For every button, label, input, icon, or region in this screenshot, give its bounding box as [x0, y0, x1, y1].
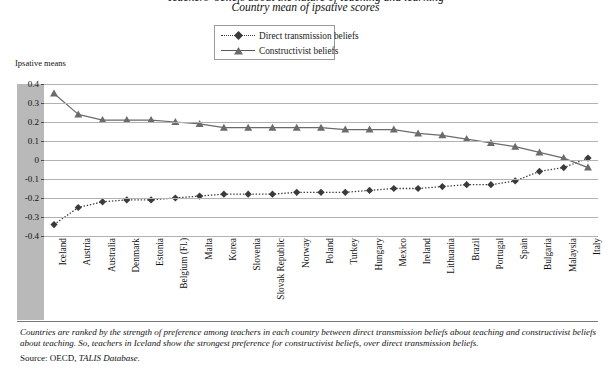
legend-item-direct-transmission: Direct transmission beliefs	[221, 29, 359, 43]
x-tick-label: Malta	[204, 238, 214, 260]
y-tick-mark	[41, 103, 44, 104]
x-tick-label: Korea	[228, 238, 238, 261]
y-tick-label: 0	[35, 155, 40, 165]
x-tick-label: Brazil	[471, 238, 481, 261]
footer-source-prefix: Source: OECD,	[20, 353, 79, 363]
legend-item-constructivist: Constructivist beliefs	[221, 44, 338, 58]
data-point-diamond	[245, 191, 252, 198]
data-point-diamond	[317, 189, 324, 196]
legend-swatch-diamond	[221, 30, 255, 42]
data-point-diamond	[220, 191, 227, 198]
x-tick-label: Turkey	[349, 238, 359, 265]
y-tick-label: 0.1	[28, 136, 39, 146]
x-tick-label: Italy	[592, 238, 602, 255]
x-tick-label: Estonia	[155, 238, 165, 266]
y-tick-label: -0.4	[25, 231, 39, 241]
x-axis-band	[17, 236, 44, 320]
data-point-diamond	[560, 164, 567, 171]
x-tick-label: Slovenia	[252, 238, 262, 271]
footer-divider	[17, 321, 598, 322]
data-point-diamond	[487, 181, 494, 188]
y-tick-label: -0.3	[25, 212, 39, 222]
figure-footer: Countries are ranked by the strength of …	[20, 327, 598, 364]
data-point-diamond	[99, 198, 106, 205]
gridline	[44, 217, 598, 218]
y-tick-mark	[41, 141, 44, 142]
legend-label-direct-transmission: Direct transmission beliefs	[259, 31, 359, 41]
x-tick-label: Belgium (Fl.)	[179, 238, 189, 289]
x-tick-label: Mexico	[398, 238, 408, 266]
x-tick-label: Hungary	[374, 238, 384, 271]
x-tick-label: Bulgaria	[543, 238, 553, 270]
y-tick-label: 0.3	[28, 98, 39, 108]
footer-source: Source: OECD, TALIS Database.	[20, 353, 598, 364]
y-tick-label: 0.2	[28, 117, 39, 127]
gridline	[44, 160, 598, 161]
footer-note: Countries are ranked by the strength of …	[20, 327, 598, 350]
gridline	[44, 236, 598, 237]
y-tick-label: 0.4	[28, 79, 39, 89]
data-point-diamond	[390, 185, 397, 192]
x-tick-label: Lithuania	[446, 238, 456, 274]
gridline	[44, 103, 598, 104]
x-tick-label: Portugal	[495, 238, 505, 270]
y-tick-mark	[41, 122, 44, 123]
y-tick-mark	[41, 236, 44, 237]
chart-legend: Direct transmission beliefs Constructivi…	[214, 25, 335, 60]
y-axis-ticks: 0.40.30.20.10-0.1-0.2-0.3-0.4	[17, 84, 44, 236]
y-axis-label: Ipsative means	[15, 58, 66, 68]
gridline	[44, 179, 598, 180]
y-tick-label: -0.2	[25, 193, 39, 203]
data-point-diamond	[414, 185, 421, 192]
diamond-icon	[234, 31, 243, 40]
y-tick-mark	[41, 217, 44, 218]
gridline	[44, 84, 598, 85]
x-tick-label: Poland	[325, 238, 335, 264]
y-tick-mark	[41, 84, 44, 85]
chart-subtitle: Country mean of ipsative scores	[0, 1, 611, 13]
data-point-diamond	[269, 191, 276, 198]
figure-container: Teachers' beliefs about the nature of te…	[0, 0, 611, 376]
y-tick-mark	[41, 198, 44, 199]
legend-swatch-triangle	[221, 45, 255, 57]
data-point-triangle	[50, 90, 58, 97]
data-point-diamond	[463, 181, 470, 188]
y-tick-mark	[41, 160, 44, 161]
y-tick-mark	[41, 179, 44, 180]
x-tick-label: Slovak Republic	[276, 238, 286, 300]
gridline	[44, 141, 598, 142]
data-point-diamond	[293, 189, 300, 196]
x-tick-label: Austria	[82, 238, 92, 265]
gridline	[44, 122, 598, 123]
gridline	[44, 198, 598, 199]
data-point-diamond	[366, 187, 373, 194]
y-tick-label: -0.1	[25, 174, 39, 184]
x-tick-label: Australia	[107, 238, 117, 272]
data-point-diamond	[536, 168, 543, 175]
legend-label-constructivist: Constructivist beliefs	[259, 46, 338, 56]
plot-area	[44, 84, 598, 236]
x-tick-label: Ireland	[422, 238, 432, 264]
footer-source-database: TALIS Database.	[79, 353, 140, 363]
triangle-icon	[234, 46, 243, 55]
x-tick-label: Malaysia	[568, 238, 578, 272]
x-axis-labels: IcelandAustriaAustraliaDenmarkEstoniaBel…	[44, 238, 598, 320]
x-tick-label: Iceland	[58, 238, 68, 265]
data-point-diamond	[439, 183, 446, 190]
x-tick-label: Spain	[519, 238, 529, 259]
data-point-diamond	[342, 189, 349, 196]
x-tick-label: Denmark	[131, 238, 141, 273]
x-tick-label: Norway	[301, 238, 311, 268]
